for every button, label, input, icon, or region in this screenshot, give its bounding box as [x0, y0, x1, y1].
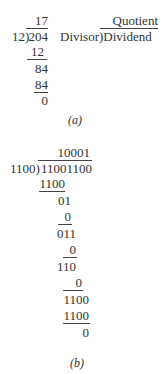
- caption-a: (a): [68, 113, 82, 128]
- divider: [63, 290, 83, 291]
- step: 1100: [38, 293, 89, 306]
- dividend-a: 204: [20, 30, 48, 43]
- step: 1100: [38, 177, 65, 190]
- divider: [58, 224, 72, 225]
- legend-divisor-dividend: Divisor)Dividend: [60, 30, 152, 43]
- step: 1100: [38, 309, 89, 322]
- divider: [63, 257, 77, 258]
- step: 0: [20, 94, 48, 107]
- step: 84: [20, 78, 48, 91]
- divider: [27, 59, 47, 60]
- quotient-a: 17: [20, 14, 48, 27]
- caption-b: (b): [70, 356, 84, 371]
- step: 01: [38, 194, 71, 207]
- step: 011: [38, 227, 76, 240]
- quotient-b: 10001: [40, 146, 90, 159]
- step: 0: [38, 276, 82, 289]
- step: 0: [38, 210, 71, 223]
- step: 0: [38, 326, 89, 339]
- step: 110: [38, 260, 76, 273]
- step: 0: [38, 243, 76, 256]
- divider: [63, 323, 90, 324]
- divider: [39, 191, 65, 192]
- divisor-b: 1100): [10, 162, 40, 175]
- step: 12: [20, 45, 44, 58]
- dividend-b: 11001100: [38, 162, 92, 175]
- step: 84: [20, 62, 48, 75]
- legend-quotient: Quotient: [80, 14, 158, 27]
